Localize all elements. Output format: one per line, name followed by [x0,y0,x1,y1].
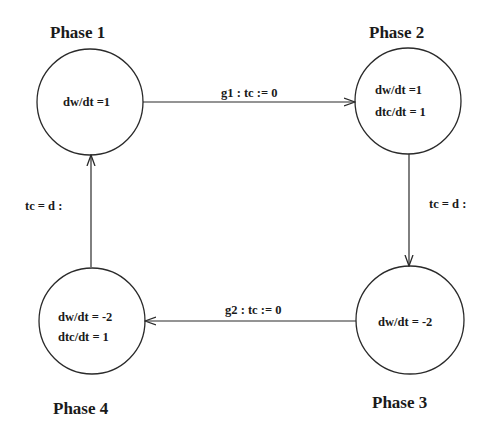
state-phase1-title: Phase 1 [50,23,105,43]
diagram-canvas [0,0,497,440]
state-phase3-title: Phase 3 [372,393,427,413]
transition-phase1-to-phase2-label: g1 : tc := 0 [221,86,277,101]
state-phase2-equation-1: dw/dt =1 [375,83,422,98]
state-phase1-equation: dw/dt =1 [63,95,110,110]
transition-phase2-to-phase3-label: tc = d : [429,197,466,212]
transition-phase4-to-phase1-label: tc = d : [25,199,62,214]
state-phase4-title: Phase 4 [53,399,108,419]
transition-phase3-to-phase4-label: g2 : tc := 0 [225,303,281,318]
state-phase2-equation-2: dtc/dt = 1 [375,105,426,120]
state-phase3-equation: dw/dt = -2 [378,315,432,330]
state-phase4-equation-1: dw/dt = -2 [58,310,112,325]
state-phase2-title: Phase 2 [369,23,424,43]
state-phase2-circle[interactable] [355,48,461,154]
state-phase4-equation-2: dtc/dt = 1 [58,330,109,345]
